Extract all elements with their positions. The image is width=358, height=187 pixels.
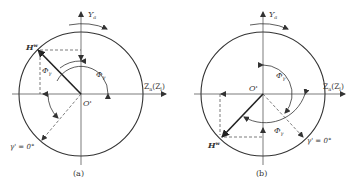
caption-b: (b) xyxy=(256,169,267,178)
panel-b: Ya Za(Zl) O' Hw Φγ Φγ γ' = 0° (b) xyxy=(194,10,345,178)
h-vector xyxy=(222,94,263,137)
zero-reference-line xyxy=(42,94,81,140)
diagram-svg: Ya Za(Zl) O' Hw Φγ Φγ γ' = 0° (a) Ya Za(… xyxy=(0,0,358,187)
phi-arc-small xyxy=(244,94,305,123)
phi-gamma2-label: Φγ xyxy=(274,126,284,137)
z-axis-label: Za(Zl) xyxy=(323,82,344,92)
origin-label: O' xyxy=(83,99,92,108)
h-vector-label: Hw xyxy=(207,140,221,150)
panel-a: Ya Za(Zl) O' Hw Φγ Φγ γ' = 0° (a) xyxy=(10,10,166,178)
phi-gamma-label: Φγ xyxy=(276,71,286,82)
phi-arc-small xyxy=(60,61,81,68)
y-axis-label: Ya xyxy=(269,10,277,20)
phi-gamma-label: Φγ xyxy=(42,66,52,77)
origin-label: O' xyxy=(249,84,258,93)
zero-label: γ' = 0° xyxy=(307,137,331,145)
z-axis-label: Za(Zl) xyxy=(144,82,165,92)
rotation-arrow-icon xyxy=(69,24,107,29)
y-axis-label: Ya xyxy=(88,10,96,20)
zero-label: γ' = 0° xyxy=(10,143,34,151)
phi-gamma2-label: Φγ xyxy=(96,70,106,81)
rotation-arrow-icon xyxy=(250,24,288,29)
figure: Ya Za(Zl) O' Hw Φγ Φγ γ' = 0° (a) Ya Za(… xyxy=(0,0,358,187)
gamma-arc xyxy=(48,94,58,118)
caption-a: (a) xyxy=(73,169,84,178)
